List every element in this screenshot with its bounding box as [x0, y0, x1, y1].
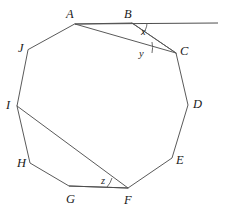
- vertex-label-c: C: [180, 45, 188, 58]
- geometry-diagram: A B C D E F G H I J x y z: [0, 0, 225, 215]
- vertex-label-j: J: [18, 42, 24, 55]
- vertex-label-g: G: [66, 193, 75, 206]
- angle-label-y: y: [139, 49, 144, 60]
- vertex-label-d: D: [193, 98, 202, 111]
- angle-label-z: z: [101, 176, 105, 187]
- vertex-label-e: E: [176, 154, 184, 167]
- vertex-label-a: A: [66, 8, 74, 21]
- decagon-interior: [17, 23, 188, 188]
- vertex-label-b: B: [124, 8, 132, 21]
- polygon-group: [17, 23, 188, 188]
- angle-label-x: x: [141, 27, 146, 38]
- vertex-label-h: H: [17, 157, 26, 170]
- diagram-canvas: [0, 0, 225, 215]
- vertex-label-f: F: [124, 194, 132, 207]
- vertex-label-i: I: [6, 99, 10, 112]
